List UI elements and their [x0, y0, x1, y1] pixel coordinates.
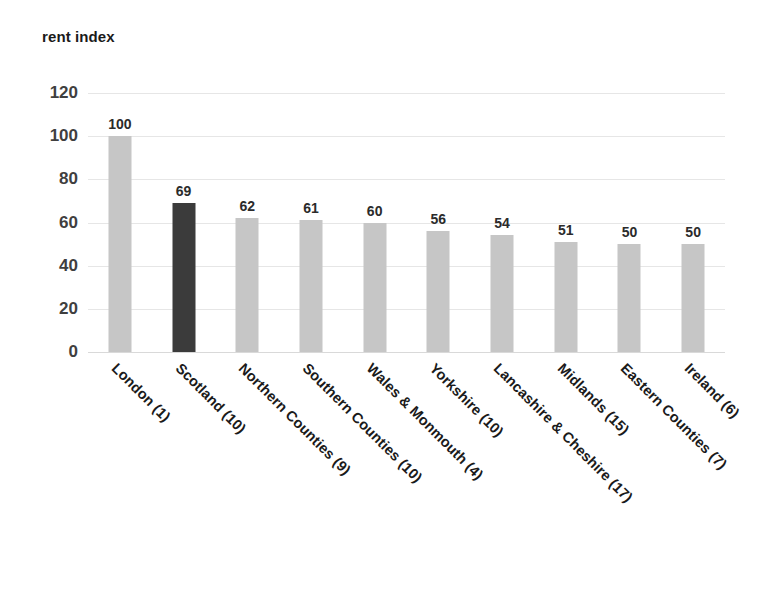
- bar-value-label: 69: [176, 183, 192, 199]
- y-axis-tick-label: 20: [16, 299, 78, 319]
- x-axis-label-slot: Southern Counties (10): [279, 352, 343, 552]
- y-axis: 120100806040200: [12, 93, 78, 352]
- bar-group: 62: [215, 93, 279, 352]
- x-axis-label-slot: Eastern Counties (7): [598, 352, 662, 552]
- bar[interactable]: [299, 220, 322, 352]
- bar-value-label: 54: [494, 215, 510, 231]
- bar-value-label: 61: [303, 200, 319, 216]
- bar-chart: rent index 120100806040200 1006962616056…: [0, 0, 762, 597]
- x-axis-label-slot: Yorkshire (10): [407, 352, 471, 552]
- bar[interactable]: [363, 223, 386, 353]
- x-axis-label-slot: Lancashire & Cheshire (17): [470, 352, 534, 552]
- bar-group: 69: [152, 93, 216, 352]
- x-axis-label-slot: Ireland (6): [661, 352, 725, 552]
- plot-area: 100696261605654515050: [88, 93, 725, 352]
- chart-title: rent index: [42, 28, 115, 45]
- bar-value-label: 60: [367, 203, 383, 219]
- x-axis-label-slot: Northern Counties (9): [215, 352, 279, 552]
- bar[interactable]: [108, 136, 131, 352]
- bar-value-label: 100: [108, 116, 131, 132]
- bar[interactable]: [236, 218, 259, 352]
- bar[interactable]: [491, 235, 514, 352]
- x-axis-tick-label: Ireland (6): [682, 360, 743, 421]
- bar-group: 50: [661, 93, 725, 352]
- bar[interactable]: [682, 244, 705, 352]
- x-axis-category-labels: London (1)Scotland (10)Northern Counties…: [88, 352, 725, 552]
- bar[interactable]: [172, 203, 195, 352]
- bar[interactable]: [618, 244, 641, 352]
- bar[interactable]: [554, 242, 577, 352]
- y-axis-tick-label: 60: [16, 213, 78, 233]
- y-axis-tick-label: 0: [16, 342, 78, 362]
- x-axis-label-slot: Scotland (10): [152, 352, 216, 552]
- bar-group: 50: [598, 93, 662, 352]
- bar-value-label: 50: [622, 224, 638, 240]
- y-axis-tick-label: 80: [16, 169, 78, 189]
- x-axis-label-slot: London (1): [88, 352, 152, 552]
- bar-group: 60: [343, 93, 407, 352]
- bar-value-label: 56: [431, 211, 447, 227]
- bar-group: 100: [88, 93, 152, 352]
- bar-group: 56: [407, 93, 471, 352]
- y-axis-tick-label: 120: [16, 83, 78, 103]
- x-axis-label-slot: Midlands (15): [534, 352, 598, 552]
- bar-value-label: 51: [558, 222, 574, 238]
- bar-value-label: 62: [239, 198, 255, 214]
- bar-group: 51: [534, 93, 598, 352]
- bar-value-label: 50: [685, 224, 701, 240]
- bar-group: 54: [470, 93, 534, 352]
- x-axis-label-slot: Wales & Monmouth (4): [343, 352, 407, 552]
- bar-group: 61: [279, 93, 343, 352]
- y-axis-tick-label: 100: [16, 126, 78, 146]
- y-axis-tick-label: 40: [16, 256, 78, 276]
- bar[interactable]: [427, 231, 450, 352]
